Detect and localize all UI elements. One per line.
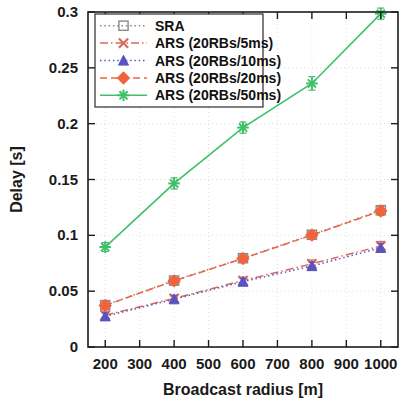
legend-label-0: SRA xyxy=(155,18,185,34)
x-tick-label: 200 xyxy=(93,355,118,372)
legend-label-4: ARS (20RBs/50ms) xyxy=(155,87,281,103)
x-tick-label: 700 xyxy=(265,355,290,372)
y-tick-label: 0 xyxy=(70,338,78,355)
x-tick-label: 400 xyxy=(162,355,187,372)
data-point-marker xyxy=(168,178,180,190)
x-tick-label: 900 xyxy=(334,355,359,372)
x-tick-label: 600 xyxy=(230,355,255,372)
delay-vs-broadcast-radius-chart: 2003004005006007008009001000 00.050.10.1… xyxy=(0,0,408,401)
x-axis-title: Broadcast radius [m] xyxy=(163,381,323,398)
y-tick-label: 0.1 xyxy=(57,226,78,243)
x-tick-label: 500 xyxy=(196,355,221,372)
legend-label-2: ARS (20RBs/10ms) xyxy=(155,53,281,69)
y-tick-label: 0.3 xyxy=(57,3,78,20)
y-tick-label: 0.2 xyxy=(57,115,78,132)
legend-label-1: ARS (20RBs/5ms) xyxy=(155,35,273,51)
chart-svg: 2003004005006007008009001000 00.050.10.1… xyxy=(0,0,408,401)
data-point-marker xyxy=(237,122,249,134)
x-tick-label: 800 xyxy=(299,355,324,372)
x-tick-label: 1000 xyxy=(364,355,397,372)
y-axis-title: Delay [s] xyxy=(8,146,25,213)
y-tick-label: 0.25 xyxy=(49,59,78,76)
y-tick-label: 0.05 xyxy=(49,282,78,299)
chart-legend: SRAARS (20RBs/5ms)ARS (20RBs/10ms)ARS (2… xyxy=(95,14,281,107)
legend-label-3: ARS (20RBs/20ms) xyxy=(155,70,281,86)
y-tick-label: 0.15 xyxy=(49,171,78,188)
x-tick-label: 300 xyxy=(127,355,152,372)
